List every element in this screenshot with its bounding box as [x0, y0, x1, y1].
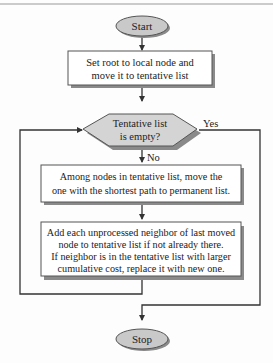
move-line-1: Among nodes in tentative list, move the [60, 171, 223, 182]
add-line-3: If neighbor is in the tentative list wit… [51, 251, 231, 262]
flowchart-svg: Start Set root to local node and move it… [0, 0, 273, 363]
stop-terminal: Stop [116, 329, 170, 351]
flowchart-canvas: Start Set root to local node and move it… [0, 0, 273, 363]
move-line-2: one with the shortest path to permanent … [52, 185, 230, 196]
decision-line-2: is empty? [120, 131, 161, 142]
start-terminal: Start [116, 16, 170, 38]
decision-line-1: Tentative list [113, 118, 167, 129]
stop-label: Stop [132, 333, 153, 345]
add-line-1: Add each unprocessed neighbor of last mo… [47, 227, 235, 238]
decision-hexagon: Tentative list is empty? [83, 114, 201, 150]
init-line-2: move it to tentative list [92, 70, 189, 81]
add-process-box: Add each unprocessed neighbor of last mo… [41, 222, 244, 280]
yes-label: Yes [203, 118, 218, 129]
move-process-box: Among nodes in tentative list, move the … [41, 165, 244, 205]
start-label: Start [132, 20, 153, 32]
init-line-1: Set root to local node and [86, 57, 194, 68]
no-label: No [147, 152, 160, 163]
add-line-4: cumulative cost, replace it with new one… [58, 263, 225, 274]
init-process-box: Set root to local node and move it to te… [68, 51, 215, 88]
add-line-2: node to tentative list if not already th… [58, 239, 223, 250]
